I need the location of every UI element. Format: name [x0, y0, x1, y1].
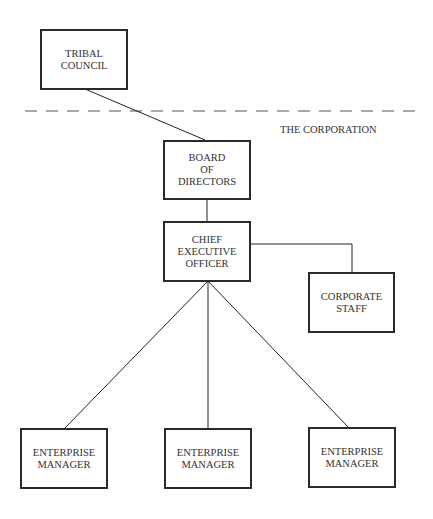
node-chief-executive-officer: CHIEF EXECUTIVE OFFICER	[163, 221, 251, 282]
node-enterprise-manager-2: ENTERPRISE MANAGER	[164, 428, 252, 489]
node-enterprise-manager-3: ENTERPRISE MANAGER	[308, 427, 396, 488]
edge-ceo-staff	[250, 244, 352, 272]
node-corporate-staff: CORPORATE STAFF	[308, 272, 395, 333]
boundary-label: THE CORPORATION	[280, 124, 377, 135]
edge-ceo-enterprise-1	[64, 281, 208, 429]
node-enterprise-manager-1: ENTERPRISE MANAGER	[20, 428, 108, 489]
node-tribal-council: TRIBAL COUNCIL	[40, 29, 128, 90]
node-board-of-directors: BOARD OF DIRECTORS	[163, 140, 251, 200]
edge-council-board	[85, 89, 205, 140]
